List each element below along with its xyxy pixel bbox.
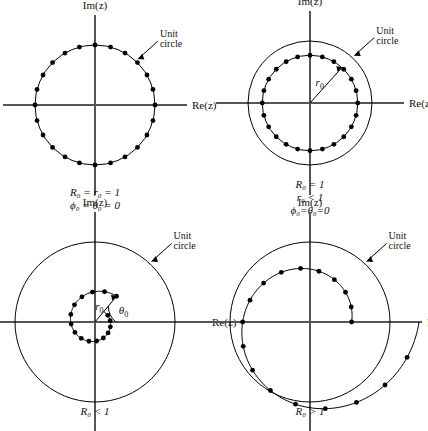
- sample-point: [105, 313, 110, 318]
- unit-circle: [248, 41, 372, 165]
- sample-point: [108, 318, 113, 323]
- inner-sampling-circle: [262, 55, 357, 150]
- sample-point: [35, 87, 40, 92]
- sample-point: [123, 51, 128, 56]
- unit-circle-pointer-line: [354, 38, 374, 56]
- sample-point: [41, 73, 46, 78]
- unit-circle-label-line2: circle: [376, 35, 399, 46]
- sample-point: [77, 161, 82, 166]
- unit-circle-label-line1: Unit: [376, 25, 394, 36]
- sample-point: [260, 101, 265, 106]
- sample-point: [145, 73, 150, 78]
- sample-point: [123, 155, 128, 160]
- caption-line: R₀ = r₀ = 1: [69, 186, 120, 198]
- sample-point: [266, 77, 271, 82]
- sample-point: [250, 368, 255, 373]
- spiral-curve: [242, 268, 419, 408]
- sample-point: [94, 339, 99, 344]
- sample-point: [320, 147, 325, 152]
- sample-point: [323, 406, 328, 411]
- sample-point: [151, 118, 156, 123]
- sample-point: [354, 113, 359, 118]
- real-axis-label: Re(z): [192, 99, 217, 112]
- sample-point: [114, 294, 119, 299]
- caption-line: R₀ > 1: [295, 405, 325, 417]
- sample-point: [354, 88, 359, 93]
- sample-point: [320, 54, 325, 59]
- panel-caption: R₀ > 1: [295, 405, 325, 417]
- sample-point: [284, 59, 289, 64]
- sample-point: [108, 324, 113, 329]
- sample-point: [151, 87, 156, 92]
- unit-circle-label-line1: Unit: [389, 230, 407, 241]
- caption-line: R₀ < 1: [80, 405, 110, 417]
- sample-point: [295, 54, 300, 59]
- sample-point: [69, 322, 74, 327]
- caption-line: R₀ = 1: [295, 178, 325, 190]
- unit-circle: [35, 45, 155, 165]
- sample-point: [349, 305, 354, 310]
- sample-point: [135, 145, 140, 150]
- sample-point: [341, 67, 346, 72]
- sample-point: [135, 60, 140, 65]
- spiral-curve: [71, 291, 117, 341]
- sample-point: [79, 336, 84, 341]
- caption-line: r₀ < 1: [297, 191, 324, 203]
- sample-point: [308, 53, 313, 58]
- r0-arrowhead: [111, 295, 117, 301]
- sample-point: [341, 134, 346, 139]
- sample-point: [63, 155, 68, 160]
- sample-point: [93, 43, 98, 48]
- sample-point: [405, 355, 410, 360]
- sample-point: [153, 103, 158, 108]
- r0-label: r0: [95, 300, 103, 315]
- sample-point: [41, 133, 46, 138]
- sample-point: [293, 402, 298, 407]
- sample-point: [349, 320, 354, 325]
- caption-line: ϕ₀ = θ₀ = 0: [70, 199, 121, 211]
- theta0-label: θ0: [119, 304, 128, 319]
- r0-radius-line: [95, 296, 117, 322]
- sample-point: [145, 133, 150, 138]
- sample-point: [240, 320, 245, 325]
- imaginary-axis-label: Im(z): [83, 0, 108, 12]
- sample-point: [295, 147, 300, 152]
- r0-radius-line: [310, 68, 342, 103]
- panel-caption: R₀ = 1r₀ < 1ϕ₀=θ₀=0: [290, 178, 330, 216]
- sample-point: [108, 45, 113, 50]
- sample-point: [73, 330, 78, 335]
- sample-point: [241, 344, 246, 349]
- sample-point: [102, 289, 107, 294]
- unit-circle-pointer-line: [152, 243, 172, 261]
- panel-caption: R₀ < 1: [80, 405, 110, 417]
- sample-point: [268, 388, 273, 393]
- unit-circle: [15, 242, 175, 402]
- unit-circle-label-line2: circle: [174, 240, 197, 251]
- sample-point: [355, 101, 360, 106]
- r0-arrowhead: [336, 66, 342, 72]
- sample-point: [354, 400, 359, 405]
- sample-point: [261, 88, 266, 93]
- panel-caption: R₀ = r₀ = 1ϕ₀ = θ₀ = 0: [69, 186, 121, 211]
- r0-label: r0: [316, 76, 324, 91]
- imaginary-axis-label: Im(z): [83, 196, 108, 209]
- real-axis-label: Re(z): [212, 316, 237, 329]
- sample-point: [261, 113, 266, 118]
- unit-circle-label-line1: Unit: [174, 230, 192, 241]
- caption-line: ϕ₀=θ₀=0: [290, 204, 330, 216]
- sample-point: [87, 339, 92, 344]
- panel-inner-circle-sampling: Im(z)Re(z)Unitcircler0R₀ = 1r₀ < 1ϕ₀=θ₀=…: [0, 0, 428, 431]
- sample-point: [80, 294, 85, 299]
- sample-point: [279, 270, 284, 275]
- unit-circle-arrowhead: [152, 256, 159, 262]
- sample-point: [101, 336, 106, 341]
- sample-point: [298, 266, 303, 271]
- panel-growing-spiral-sampling: Im(z)Re(z)UnitcircleR₀ > 1: [0, 0, 428, 431]
- sample-point: [248, 298, 253, 303]
- sample-point: [35, 118, 40, 123]
- sample-point: [274, 67, 279, 72]
- sample-point: [261, 281, 266, 286]
- sample-point: [331, 59, 336, 64]
- unit-circle-label-line2: circle: [160, 38, 183, 49]
- unit-circle-pointer-line: [367, 243, 387, 261]
